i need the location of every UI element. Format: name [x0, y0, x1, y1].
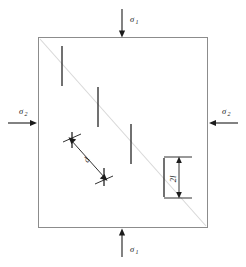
dim-2l-label: 2l	[168, 175, 178, 182]
load-left-label: σ	[19, 106, 24, 116]
load-top-arrowhead	[119, 31, 125, 38]
load-top-label: σ	[130, 14, 135, 24]
load-bottom-label: σ	[130, 244, 135, 254]
dim-2l-arrowhead-top	[176, 157, 182, 164]
load-right-arrowhead	[209, 120, 216, 126]
fracture-diagram-figure: d 2l σ 1 σ 2 σ 2	[0, 0, 246, 267]
load-bottom: σ 1	[119, 229, 138, 258]
load-right-label-subscript: 2	[227, 111, 230, 117]
load-left-arrowhead	[30, 120, 37, 126]
load-left: σ 2	[8, 106, 37, 126]
dimension-spacing-d: d	[69, 137, 108, 181]
load-top: σ 1	[119, 9, 138, 38]
dim-d-label: d	[81, 155, 92, 164]
diagram-canvas: d 2l σ 1 σ 2 σ 2	[0, 0, 246, 267]
load-bottom-label-subscript: 1	[135, 249, 138, 255]
load-right-label: σ	[222, 106, 227, 116]
load-bottom-arrowhead	[119, 229, 125, 236]
load-right: σ 2	[209, 106, 238, 126]
dimension-length-2l: 2l	[164, 157, 192, 199]
load-left-label-subscript: 2	[24, 111, 27, 117]
load-top-label-subscript: 1	[135, 19, 138, 25]
